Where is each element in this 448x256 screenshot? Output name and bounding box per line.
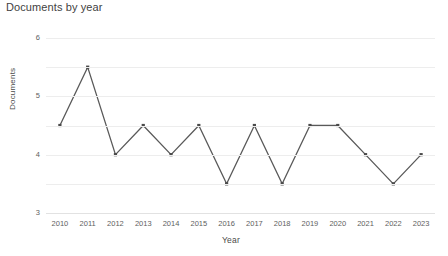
y-axis-label: Documents <box>8 98 17 110</box>
x-tick-label-2023: 2023 <box>413 220 430 228</box>
gridline-y-3: 3 <box>46 126 435 127</box>
chart-title: Documents by year <box>6 1 102 13</box>
x-tick-label-2016: 2016 <box>218 220 235 228</box>
y-tick-label-4: 4 <box>36 151 40 159</box>
y-tick-label-6: 6 <box>36 34 40 42</box>
gridline-y-4: 4 <box>46 96 435 97</box>
x-tick-label-2020: 2020 <box>329 220 346 228</box>
x-tick-label-2021: 2021 <box>357 220 374 228</box>
y-tick-label-5: 5 <box>36 93 40 101</box>
x-tick-label-2012: 2012 <box>107 220 124 228</box>
y-tick-label-3: 3 <box>36 209 40 217</box>
x-tick-label-2018: 2018 <box>274 220 291 228</box>
x-axis-label-text: Year <box>208 235 240 245</box>
x-tick-label-2013: 2013 <box>135 220 152 228</box>
gridline-y-5: 5 <box>46 67 435 68</box>
plot-area: 0123456 <box>46 38 435 213</box>
x-tick-label-2010: 2010 <box>52 220 69 228</box>
x-axis-tick-labels: 2010201120122013201420152016201720182019… <box>46 220 435 234</box>
x-tick-label-2017: 2017 <box>246 220 263 228</box>
gridline-y-2: 2 <box>46 155 435 156</box>
x-tick-label-2014: 2014 <box>163 220 180 228</box>
x-tick-label-2015: 2015 <box>190 220 207 228</box>
documents-by-year-chart: Documents by year Documents 0123456 2010… <box>0 0 448 256</box>
x-axis-label: Year <box>0 235 448 245</box>
gridline-y-1: 1 <box>46 184 435 185</box>
gridline-y-0: 0 <box>46 213 435 214</box>
x-tick-label-2019: 2019 <box>302 220 319 228</box>
x-tick-label-2022: 2022 <box>385 220 402 228</box>
gridline-y-6: 6 <box>46 38 435 39</box>
x-tick-label-2011: 2011 <box>80 220 96 228</box>
